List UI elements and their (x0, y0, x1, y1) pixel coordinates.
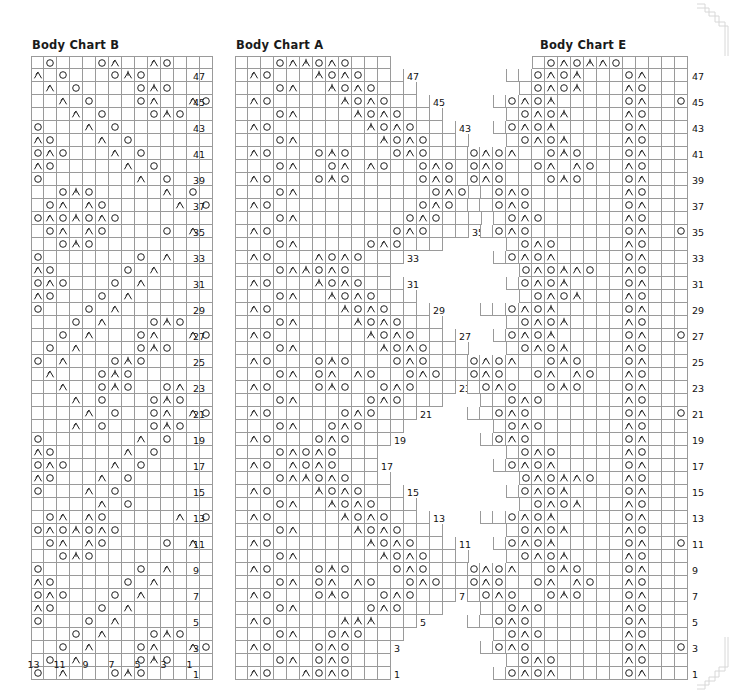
chart-cell[interactable] (135, 186, 148, 199)
chart-cell[interactable] (148, 56, 161, 69)
chart-cell[interactable] (519, 329, 532, 342)
chart-cell[interactable] (675, 628, 688, 641)
chart-cell[interactable] (174, 121, 187, 134)
chart-cell[interactable] (545, 576, 558, 589)
chart-cell[interactable] (248, 147, 261, 160)
chart-cell[interactable] (597, 511, 610, 524)
chart-cell[interactable] (662, 576, 675, 589)
chart-cell[interactable] (135, 355, 148, 368)
chart-cell[interactable] (623, 251, 636, 264)
chart-cell[interactable] (404, 134, 417, 147)
chart-cell[interactable] (545, 173, 558, 186)
chart-cell[interactable] (235, 225, 248, 238)
chart-cell[interactable] (571, 108, 584, 121)
chart-cell[interactable] (430, 147, 443, 160)
chart-cell[interactable] (571, 537, 584, 550)
chart-cell[interactable] (200, 576, 213, 589)
chart-cell[interactable] (326, 368, 339, 381)
chart-cell[interactable] (493, 667, 506, 680)
chart-cell[interactable] (96, 381, 109, 394)
chart-cell[interactable] (235, 303, 248, 316)
chart-cell[interactable] (610, 225, 623, 238)
chart-cell[interactable] (519, 147, 532, 160)
chart-cell[interactable] (274, 602, 287, 615)
chart-cell[interactable] (261, 563, 274, 576)
chart-cell[interactable] (200, 316, 213, 329)
chart-cell[interactable] (506, 147, 519, 160)
chart-cell[interactable] (326, 524, 339, 537)
chart-cell[interactable] (70, 56, 83, 69)
chart-cell[interactable] (83, 134, 96, 147)
chart-cell[interactable] (122, 511, 135, 524)
chart-cell[interactable] (675, 56, 688, 69)
chart-cell[interactable] (506, 420, 519, 433)
chart-cell[interactable] (326, 433, 339, 446)
chart-cell[interactable] (662, 56, 675, 69)
chart-cell[interactable] (187, 602, 200, 615)
chart-cell[interactable] (584, 251, 597, 264)
chart-cell[interactable] (70, 69, 83, 82)
chart-cell[interactable] (122, 329, 135, 342)
chart-cell[interactable] (44, 537, 57, 550)
chart-cell[interactable] (430, 212, 443, 225)
chart-cell[interactable] (135, 56, 148, 69)
chart-cell[interactable] (57, 537, 70, 550)
chart-cell[interactable] (404, 498, 417, 511)
chart-cell[interactable] (558, 537, 571, 550)
chart-cell[interactable] (57, 264, 70, 277)
chart-cell[interactable] (623, 368, 636, 381)
chart-cell[interactable] (261, 537, 274, 550)
chart-cell[interactable] (571, 160, 584, 173)
chart-cell[interactable] (109, 69, 122, 82)
chart-cell[interactable] (339, 537, 352, 550)
chart-cell[interactable] (174, 56, 187, 69)
chart-cell[interactable] (675, 277, 688, 290)
chart-cell[interactable] (378, 550, 391, 563)
chart-cell[interactable] (44, 498, 57, 511)
chart-cell[interactable] (248, 472, 261, 485)
chart-cell[interactable] (545, 95, 558, 108)
chart-cell[interactable] (109, 537, 122, 550)
chart-cell[interactable] (261, 69, 274, 82)
chart-cell[interactable] (326, 212, 339, 225)
chart-cell[interactable] (274, 316, 287, 329)
chart-cell[interactable] (57, 303, 70, 316)
chart-cell[interactable] (122, 602, 135, 615)
chart-cell[interactable] (70, 264, 83, 277)
chart-cell[interactable] (161, 485, 174, 498)
chart-cell[interactable] (545, 563, 558, 576)
chart-cell[interactable] (352, 355, 365, 368)
chart-cell[interactable] (174, 550, 187, 563)
chart-cell[interactable] (235, 264, 248, 277)
chart-cell[interactable] (391, 576, 404, 589)
chart-cell[interactable] (70, 212, 83, 225)
chart-cell[interactable] (352, 134, 365, 147)
chart-cell[interactable] (135, 69, 148, 82)
chart-cell[interactable] (339, 251, 352, 264)
chart-cell[interactable] (623, 82, 636, 95)
chart-cell[interactable] (649, 433, 662, 446)
chart-cell[interactable] (31, 407, 44, 420)
chart-cell[interactable] (391, 381, 404, 394)
chart-cell[interactable] (200, 498, 213, 511)
chart-cell[interactable] (675, 381, 688, 394)
chart-cell[interactable] (148, 420, 161, 433)
chart-cell[interactable] (339, 225, 352, 238)
chart-cell[interactable] (506, 589, 519, 602)
chart-cell[interactable] (636, 238, 649, 251)
chart-cell[interactable] (200, 654, 213, 667)
chart-cell[interactable] (135, 212, 148, 225)
chart-cell[interactable] (83, 69, 96, 82)
chart-cell[interactable] (378, 264, 391, 277)
chart-cell[interactable] (545, 147, 558, 160)
chart-cell[interactable] (636, 550, 649, 563)
chart-cell[interactable] (480, 589, 493, 602)
chart-cell[interactable] (248, 446, 261, 459)
chart-cell[interactable] (506, 446, 519, 459)
chart-cell[interactable] (31, 329, 44, 342)
chart-cell[interactable] (274, 173, 287, 186)
chart-cell[interactable] (326, 589, 339, 602)
chart-cell[interactable] (365, 95, 378, 108)
chart-cell[interactable] (584, 147, 597, 160)
chart-cell[interactable] (235, 82, 248, 95)
